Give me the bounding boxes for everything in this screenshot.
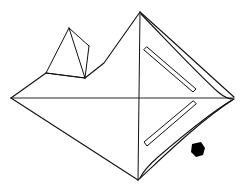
- drawing-canvas: [0, 0, 240, 196]
- line-drawing: [0, 0, 240, 196]
